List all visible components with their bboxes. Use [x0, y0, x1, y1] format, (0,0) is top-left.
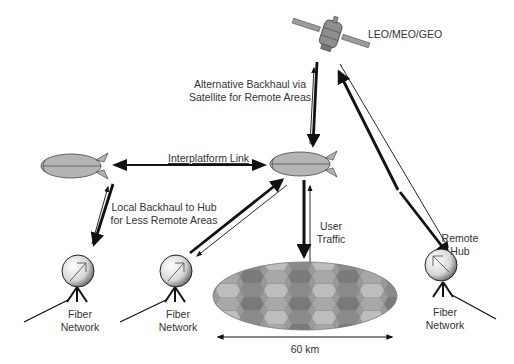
user-traffic-label: User Traffic [313, 220, 349, 245]
ground-station-left-label: Fiber Network [55, 308, 105, 333]
alt-backhaul-label-line2: Satellite for Remote Areas [185, 91, 315, 104]
alt-backhaul-label-line1: Alternative Backhaul via [185, 78, 315, 91]
network-label: Network [55, 321, 105, 334]
alt-backhaul-arrows [310, 62, 317, 145]
interplatform-link-label: Interplatform Link [168, 152, 249, 165]
hap-network-diagram: LEO/MEO/GEO Alternative Backhaul via Sat… [0, 0, 514, 364]
remote-hub-label: Remote Hub [440, 232, 480, 257]
user-traffic-label-line1: User [313, 220, 349, 233]
alt-backhaul-label: Alternative Backhaul via Satellite for R… [185, 78, 315, 103]
user-traffic-label-line2: Traffic [313, 233, 349, 246]
airship-center-icon [270, 151, 337, 177]
fiber-label: Fiber [420, 306, 470, 319]
coverage-diameter-label: 60 km [280, 343, 330, 356]
local-backhaul-label-line2: for Less Remote Areas [108, 214, 220, 227]
remote-hub-label-line2: Hub [440, 245, 480, 258]
local-backhaul-label: Local Backhaul to Hub for Less Remote Ar… [108, 201, 220, 226]
fiber-label: Fiber [55, 308, 105, 321]
ground-station-center-label: Fiber Network [153, 308, 203, 333]
airship-left-icon [41, 153, 108, 179]
network-label: Network [420, 319, 470, 332]
network-label: Network [153, 321, 203, 334]
fiber-label: Fiber [153, 308, 203, 321]
remote-hub-satellite-arrows [339, 64, 448, 254]
coverage-area [210, 260, 400, 332]
ground-station-remote-label: Fiber Network [420, 306, 470, 331]
satellite-orbit-label: LEO/MEO/GEO [368, 28, 442, 41]
satellite-icon [287, 4, 374, 62]
local-backhaul-label-line1: Local Backhaul to Hub [108, 201, 220, 214]
user-traffic-arrows [304, 180, 310, 262]
remote-hub-label-line1: Remote [440, 232, 480, 245]
